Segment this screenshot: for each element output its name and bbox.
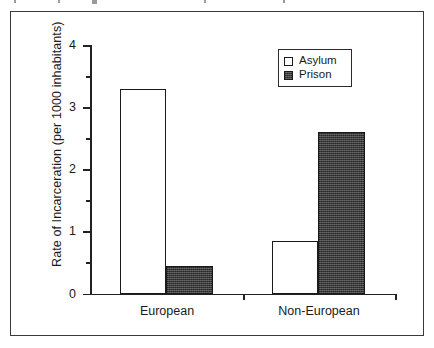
bar-european-prison[interactable] <box>166 266 213 295</box>
legend-label-prison: Prison <box>299 69 332 81</box>
legend-item-prison[interactable]: Prison <box>284 68 345 82</box>
legend-item-asylum[interactable]: Asylum <box>284 54 345 68</box>
y-tick-2 <box>83 169 90 171</box>
y-tick-3 <box>83 107 90 109</box>
y-minor-tick-1-5 <box>86 200 90 202</box>
y-minor-tick-0-5 <box>86 262 90 264</box>
bar-chart: Rate of Incarceration (per 1000 inhabita… <box>11 12 425 337</box>
y-tick-label-1: 1 <box>46 225 76 238</box>
bar-european-asylum[interactable] <box>120 89 166 295</box>
y-tick-label-4: 4 <box>46 39 76 52</box>
y-tick-4 <box>83 45 90 47</box>
y-tick-label-3: 3 <box>46 101 76 114</box>
cut-off-text-fragment <box>0 0 434 8</box>
bar-non-european-asylum[interactable] <box>272 241 318 295</box>
y-minor-tick-3-5 <box>86 76 90 78</box>
figure-frame: Rate of Incarceration (per 1000 inhabita… <box>10 11 424 336</box>
y-tick-0 <box>83 294 90 296</box>
y-tick-label-2: 2 <box>46 163 76 176</box>
x-tick-group-separator <box>243 294 245 300</box>
x-category-label-non-european: Non-European <box>264 304 374 318</box>
chart-legend: Asylum Prison <box>278 49 352 87</box>
x-category-label-european: European <box>121 304 213 318</box>
y-axis-line <box>90 45 92 295</box>
y-tick-label-0: 0 <box>46 288 76 301</box>
legend-label-asylum: Asylum <box>299 55 337 67</box>
x-tick-end <box>395 294 397 300</box>
bar-non-european-prison[interactable] <box>318 132 365 294</box>
asylum-swatch-icon <box>284 57 293 66</box>
prison-swatch-icon <box>284 71 293 80</box>
y-tick-1 <box>83 231 90 233</box>
y-minor-tick-2-5 <box>86 138 90 140</box>
